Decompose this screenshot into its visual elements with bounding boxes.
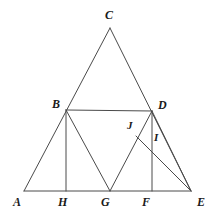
vertex-label-j: J	[127, 120, 133, 131]
vertex-label-e: E	[197, 196, 205, 208]
vertex-label-a: A	[13, 196, 21, 208]
diagonal-J-E	[136, 136, 191, 191]
geometry-canvas	[0, 0, 216, 216]
vertex-label-g: G	[101, 196, 110, 208]
vertex-label-h: H	[58, 196, 67, 208]
vertex-label-i: I	[154, 132, 158, 143]
vertex-label-b: B	[52, 98, 60, 110]
diagonal-B-G	[66, 110, 110, 191]
midline-B-D	[66, 110, 152, 111]
diagonal-D-E	[152, 111, 191, 191]
vertex-label-c: C	[105, 9, 113, 21]
geometry-figure: ABCDEFGHIJ	[0, 0, 216, 216]
vertex-label-d: D	[158, 99, 167, 111]
vertex-label-f: F	[142, 196, 150, 208]
